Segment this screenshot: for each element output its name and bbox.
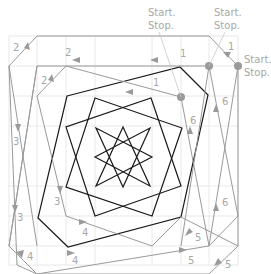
start-label-1: Start.	[148, 7, 176, 18]
segment-label: 1	[153, 77, 159, 88]
segment-label: 6	[222, 96, 228, 107]
segment-label: 5	[195, 232, 201, 243]
nested-squares-diagram: Start. Stop. Start. Stop. Start. Stop. 1…	[0, 0, 271, 274]
background-grid	[9, 36, 238, 265]
segment-label: 4	[82, 227, 88, 238]
start-point-2	[234, 62, 242, 70]
segment-label: 2	[41, 75, 47, 86]
segment-label: 1	[180, 48, 186, 59]
segment-label: 6	[222, 197, 228, 208]
segment-label: 2	[13, 42, 19, 53]
start-label-3: Start.	[244, 54, 271, 65]
segment-label: 2	[65, 47, 71, 58]
segment-label: 5	[188, 255, 194, 266]
segment-label: 4	[72, 255, 78, 266]
stop-label-2: Stop.	[214, 20, 240, 31]
segment-label: 3	[54, 196, 60, 207]
segment-label: 6	[190, 115, 196, 126]
gray-paths	[9, 36, 238, 274]
segment-label: 3	[17, 212, 23, 223]
stop-label-3: Stop.	[244, 67, 270, 78]
segment-label: 3	[13, 136, 19, 147]
start-label-2: Start.	[214, 7, 242, 18]
segment-label: 4	[27, 251, 33, 262]
segment-label: 1	[228, 41, 234, 52]
stop-label-1: Stop.	[148, 20, 174, 31]
segment-label: 5	[225, 259, 231, 270]
